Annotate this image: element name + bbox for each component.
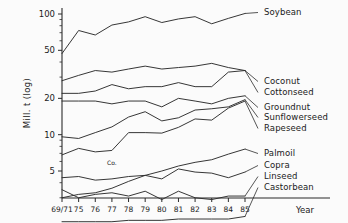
y-tick-label: 20 — [44, 93, 55, 103]
chart-annotations: Co. — [107, 159, 117, 166]
x-tick-label: 78 — [124, 205, 134, 214]
x-tick-label: 77 — [107, 205, 117, 214]
x-axis-title: Year — [295, 205, 315, 215]
x-tick-label: 82 — [190, 205, 200, 214]
series-label-rapeseed: Rapeseed — [264, 123, 307, 133]
series-label-groundnut: Groundnut — [264, 102, 311, 112]
leader-line-copra — [245, 166, 258, 173]
y-axis-title: Mill. t (log) — [22, 78, 32, 129]
leader-line-linseed — [245, 177, 258, 197]
line-chart: SoybeanCoconutCottonseedGroundnutSunflow… — [0, 0, 348, 223]
x-tick-label: 85 — [240, 205, 250, 214]
x-tick-label: 83 — [207, 205, 217, 214]
x-tick-label: 75 — [74, 205, 84, 214]
series-line-cottonseed — [62, 71, 245, 94]
chart-canvas: SoybeanCoconutCottonseedGroundnutSunflow… — [0, 0, 348, 223]
series-label-sunflowerseed: Sunflowerseed — [264, 112, 328, 122]
y-tick-label: 5 — [50, 166, 55, 176]
leader-line-cottonseed — [245, 71, 258, 93]
series-line-castorbean — [62, 216, 245, 221]
series-line-rapeseed — [62, 101, 245, 155]
series-label-soybean: Soybean — [264, 7, 302, 17]
series-lines — [62, 13, 245, 221]
series-label-coconut: Coconut — [264, 76, 300, 86]
series-label-castorbean: Castorbean — [264, 182, 314, 192]
y-tick-label: 50 — [44, 45, 55, 55]
y-axis-ticks — [58, 14, 62, 171]
x-tick-label: 69/71 — [51, 205, 73, 214]
x-axis-tick-labels: 69/717576777879808182838485 — [51, 205, 250, 214]
series-label-palmoil: Palmoil — [264, 148, 295, 158]
series-line-coconut — [62, 63, 245, 80]
series-line-groundnut — [62, 96, 245, 107]
y-tick-label: 100 — [39, 9, 55, 19]
series-line-soybean — [62, 13, 245, 53]
x-tick-label: 80 — [157, 205, 167, 214]
y-axis-tick-labels: 1005020105 — [39, 9, 55, 176]
series-line-copra — [62, 169, 245, 180]
series-label-copra: Copra — [264, 160, 290, 170]
series-label-cottonseed: Cottonseed — [264, 87, 314, 97]
series-line-palmoil — [62, 149, 245, 198]
x-tick-label: 84 — [224, 205, 234, 214]
x-tick-label: 76 — [90, 205, 100, 214]
leader-line-soybean — [245, 13, 258, 14]
leader-line-coconut — [245, 71, 258, 82]
series-label-linseed: Linseed — [264, 171, 297, 181]
x-tick-label: 81 — [174, 205, 184, 214]
leader-line-palmoil — [245, 149, 258, 153]
annotation-label: Co. — [107, 159, 117, 166]
y-tick-label: 10 — [44, 130, 55, 140]
x-tick-label: 79 — [140, 205, 150, 214]
series-labels: SoybeanCoconutCottonseedGroundnutSunflow… — [264, 7, 328, 192]
series-leader-lines — [245, 13, 258, 217]
